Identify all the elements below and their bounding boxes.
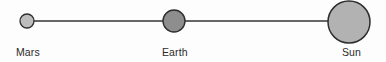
earth-label: Earth bbox=[162, 46, 188, 58]
sun-circle bbox=[328, 1, 370, 43]
mars-circle bbox=[20, 14, 34, 28]
diagram-canvas bbox=[0, 0, 386, 62]
earth-circle bbox=[163, 10, 185, 32]
alignment-diagram: Mars Earth Sun bbox=[0, 0, 386, 62]
mars-label: Mars bbox=[16, 46, 40, 58]
sun-label: Sun bbox=[342, 46, 361, 58]
